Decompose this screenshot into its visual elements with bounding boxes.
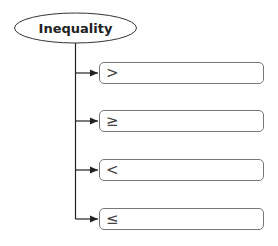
node-symbol: ≥	[106, 112, 119, 130]
root-node: Inequality	[14, 13, 137, 43]
child-node-greater-than: >	[99, 62, 264, 84]
child-node-less-equal: ≤	[99, 208, 264, 230]
root-label: Inequality	[39, 21, 113, 36]
node-symbol: <	[106, 161, 119, 179]
node-symbol: ≤	[106, 210, 119, 228]
child-node-less-than: <	[99, 159, 264, 181]
node-symbol: >	[106, 64, 119, 82]
child-node-greater-equal: ≥	[99, 110, 264, 132]
